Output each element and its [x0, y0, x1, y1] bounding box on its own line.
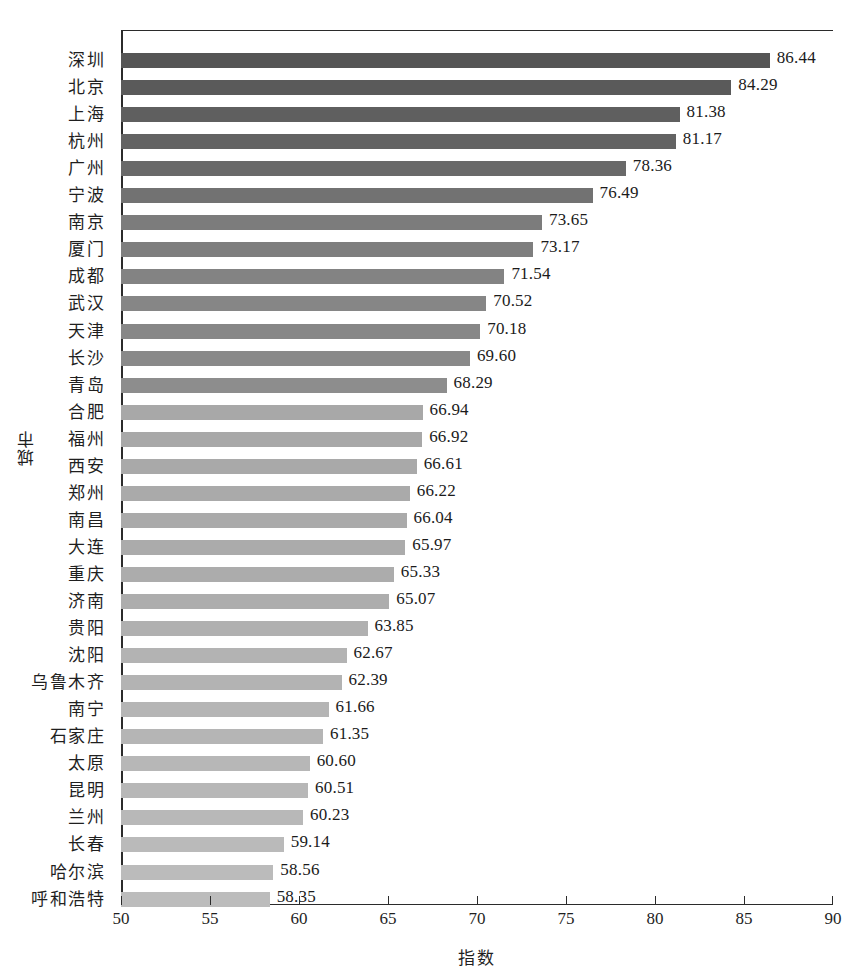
bar-row: 60.23: [121, 804, 833, 831]
bar: [121, 594, 389, 609]
bar: [121, 269, 504, 284]
bar-row: 58.56: [121, 859, 833, 886]
bar: [121, 756, 310, 771]
category-label: 合肥: [68, 399, 105, 426]
category-label: 西安: [68, 453, 105, 480]
category-label: 沈阳: [68, 642, 105, 669]
bar-value-label: 86.44: [777, 48, 816, 68]
bar-row: 66.61: [121, 453, 833, 480]
bar-value-label: 60.51: [315, 778, 354, 798]
bar: [121, 161, 626, 176]
x-tick-mark: [832, 896, 833, 905]
category-label: 太原: [68, 750, 105, 777]
category-label: 昆明: [68, 777, 105, 804]
bar-row: 66.94: [121, 399, 833, 426]
x-tick-label: 70: [469, 909, 486, 929]
bar-row: 70.18: [121, 318, 833, 345]
bar: [121, 80, 731, 95]
bar: [121, 783, 308, 798]
bar-value-label: 70.18: [487, 319, 526, 339]
bar: [121, 107, 680, 122]
bar: [121, 188, 593, 203]
category-label: 哈尔滨: [50, 859, 106, 886]
category-label: 深圳: [68, 47, 105, 74]
category-label: 石家庄: [50, 723, 106, 750]
x-tick-label: 55: [202, 909, 219, 929]
x-tick-mark: [566, 896, 567, 905]
bar-value-label: 65.97: [412, 535, 451, 555]
category-label: 呼和浩特: [31, 886, 105, 913]
category-label: 贵阳: [68, 615, 105, 642]
category-label: 青岛: [68, 372, 105, 399]
category-label-column: 深圳北京上海杭州广州宁波南京厦门成都武汉天津长沙青岛合肥福州西安郑州南昌大连重庆…: [0, 30, 113, 905]
bar-value-label: 81.17: [683, 129, 722, 149]
bar-value-label: 58.35: [277, 887, 316, 907]
x-tick-label: 80: [647, 909, 664, 929]
bar-value-label: 70.52: [493, 291, 532, 311]
bar: [121, 405, 423, 420]
bar: [121, 351, 470, 366]
bar: [121, 648, 347, 663]
bar: [121, 621, 368, 636]
bar-row: 71.54: [121, 263, 833, 290]
bar: [121, 702, 329, 717]
x-tick-label: 75: [558, 909, 575, 929]
x-axis-title: 指数: [121, 944, 833, 969]
bar-row: 65.97: [121, 534, 833, 561]
bar-value-label: 73.17: [540, 237, 579, 257]
category-label: 厦门: [68, 236, 105, 263]
category-label: 北京: [68, 74, 105, 101]
bar: [121, 865, 273, 880]
bar-value-label: 66.22: [417, 481, 456, 501]
category-label: 天津: [68, 318, 105, 345]
bar-row: 61.66: [121, 696, 833, 723]
bar-row: 66.92: [121, 426, 833, 453]
bar-value-label: 81.38: [687, 102, 726, 122]
bar-row: 86.44: [121, 47, 833, 74]
category-label: 宁波: [68, 182, 105, 209]
bar: [121, 567, 394, 582]
x-tick-mark: [388, 896, 389, 905]
bar-row: 59.14: [121, 831, 833, 858]
bar: [121, 378, 447, 393]
bar-value-label: 60.60: [317, 751, 356, 771]
x-tick-mark: [121, 896, 122, 905]
bar-row: 69.60: [121, 345, 833, 372]
bar-value-label: 58.56: [280, 860, 319, 880]
bar-value-label: 62.67: [354, 643, 393, 663]
bar-value-label: 65.07: [396, 589, 435, 609]
bar-row: 73.17: [121, 236, 833, 263]
bar-row: 78.36: [121, 155, 833, 182]
x-tick-mark: [655, 896, 656, 905]
bar-value-label: 61.35: [330, 724, 369, 744]
x-tick-label: 90: [825, 909, 842, 929]
category-label: 济南: [68, 588, 105, 615]
bar: [121, 134, 676, 149]
bar-row: 66.22: [121, 480, 833, 507]
bar-row: 81.38: [121, 101, 833, 128]
x-tick-mark: [477, 896, 478, 905]
category-label: 大连: [68, 534, 105, 561]
bar-row: 81.17: [121, 128, 833, 155]
category-label: 成都: [68, 263, 105, 290]
bar: [121, 540, 405, 555]
bar: [121, 675, 342, 690]
bar-value-label: 59.14: [291, 832, 330, 852]
category-label: 长沙: [68, 345, 105, 372]
bar-rows: 86.4484.2981.3881.1778.3676.4973.6573.17…: [121, 30, 833, 905]
bar-row: 65.33: [121, 561, 833, 588]
bar-value-label: 66.61: [424, 454, 463, 474]
bar-row: 73.65: [121, 209, 833, 236]
bar-value-label: 76.49: [600, 183, 639, 203]
x-tick-label: 50: [113, 909, 130, 929]
plot-area: 86.4484.2981.3881.1778.3676.4973.6573.17…: [121, 30, 833, 905]
bar-row: 62.39: [121, 669, 833, 696]
x-tick-label: 65: [380, 909, 397, 929]
bar: [121, 242, 533, 257]
category-label: 兰州: [68, 804, 105, 831]
category-label: 南宁: [68, 696, 105, 723]
category-label: 广州: [68, 155, 105, 182]
bar: [121, 324, 480, 339]
x-axis-ticks: 505560657075808590: [121, 905, 833, 945]
bar-value-label: 60.23: [310, 805, 349, 825]
